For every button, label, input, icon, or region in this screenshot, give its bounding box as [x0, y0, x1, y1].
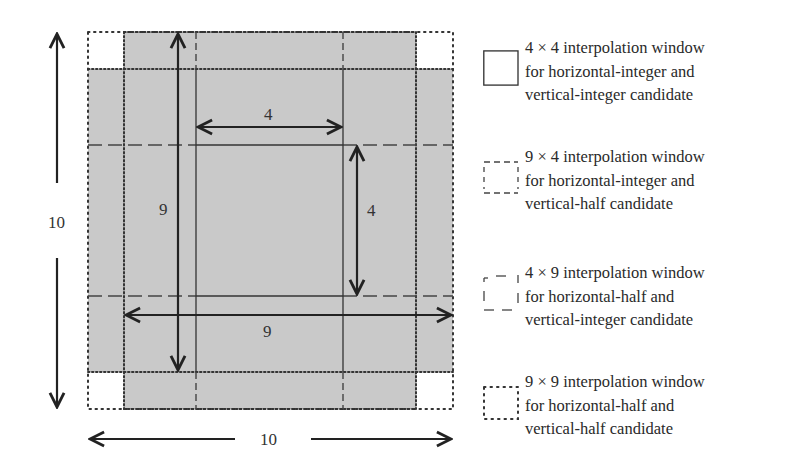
legend-line: vertical-half candidate: [525, 417, 705, 441]
legend-line: 4 × 9 interpolation window: [525, 261, 705, 285]
label-inner-v-span: 4: [367, 201, 376, 220]
label-outer-height: 10: [48, 213, 65, 232]
legend-line: 9 × 9 interpolation window: [525, 370, 705, 394]
legend-line: vertical-integer candidate: [525, 83, 705, 107]
legend-line: for horizontal-integer and: [525, 169, 705, 193]
legend-line: for horizontal-half and: [525, 285, 705, 309]
interpolation-window-diagram: 10 10 9 9 4 4: [0, 0, 470, 473]
legend-line: 4 × 4 interpolation window: [525, 36, 705, 60]
label-nine-horizontal: 9: [263, 322, 272, 341]
legend-text-9x9: 9 × 9 interpolation window for horizonta…: [525, 370, 705, 441]
legend-line: vertical-integer candidate: [525, 308, 705, 332]
long-dashed-square-icon: [482, 275, 520, 311]
legend-line: 9 × 4 interpolation window: [525, 145, 705, 169]
legend-line: vertical-half candidate: [525, 192, 705, 216]
label-outer-width: 10: [260, 430, 277, 449]
label-nine-vertical: 9: [159, 200, 168, 219]
dotted-square-icon: [482, 384, 520, 420]
legend-line: for horizontal-half and: [525, 394, 705, 418]
solid-square-icon: [482, 50, 520, 86]
legend-line: for horizontal-integer and: [525, 60, 705, 84]
legend-text-4x4: 4 × 4 interpolation window for horizonta…: [525, 36, 705, 107]
short-dashed-square-icon: [482, 159, 520, 195]
legend-text-9x4: 9 × 4 interpolation window for horizonta…: [525, 145, 705, 216]
label-inner-h-span: 4: [264, 105, 273, 124]
shaded-window-area: [88, 32, 453, 409]
legend-text-4x9: 4 × 9 interpolation window for horizonta…: [525, 261, 705, 332]
